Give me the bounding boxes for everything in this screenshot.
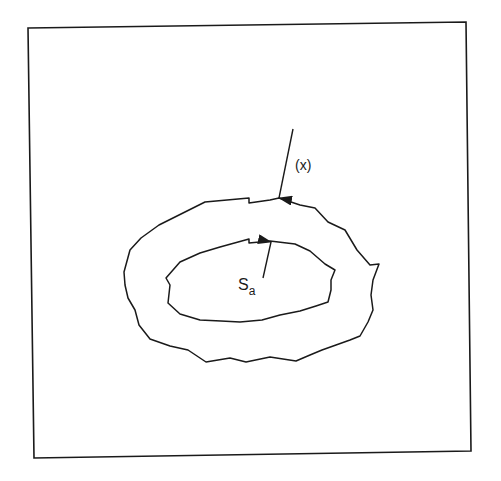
- sa-label: Sa: [238, 276, 256, 298]
- sa-arrow: [263, 242, 271, 278]
- diagram-canvas: (x) Sa: [0, 0, 501, 481]
- inner-contour: [166, 239, 335, 322]
- sa-label-main: S: [238, 276, 249, 293]
- x-arrow: [279, 129, 293, 198]
- x-label: (x): [295, 157, 311, 173]
- outer-contour: [124, 198, 379, 362]
- sa-label-subscript: a: [249, 284, 256, 298]
